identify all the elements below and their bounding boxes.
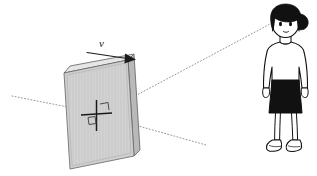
figure-canvas: v	[0, 0, 317, 176]
left-leg	[275, 113, 281, 140]
left-eye	[279, 22, 282, 26]
left-shoe	[267, 140, 282, 151]
skirt	[269, 80, 302, 113]
velocity-label: v	[99, 38, 104, 49]
left-hand	[263, 88, 270, 98]
mirror-panel	[64, 50, 140, 175]
observer-girl	[263, 4, 309, 151]
right-leg	[292, 113, 298, 140]
sight-line-group	[12, 23, 272, 145]
diagram-svg	[0, 0, 317, 176]
right-hand	[301, 88, 308, 98]
right-eye	[289, 22, 292, 26]
velocity-arrow-shaft	[87, 53, 127, 59]
